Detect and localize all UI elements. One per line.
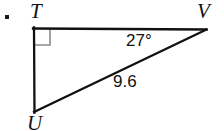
angle-measure-label-v: 27° xyxy=(126,32,152,49)
side-uv-hypotenuse xyxy=(34,30,207,113)
side-tv xyxy=(33,29,207,30)
right-angle-marker-icon xyxy=(33,29,50,46)
vertex-label-v: V xyxy=(197,1,210,22)
vertex-label-t: T xyxy=(30,1,42,22)
vertex-label-u: U xyxy=(27,113,42,131)
side-tu xyxy=(34,28,35,113)
geometry-figure: T V U 27° 9.6 xyxy=(0,0,224,131)
side-length-label-uv: 9.6 xyxy=(113,73,137,90)
